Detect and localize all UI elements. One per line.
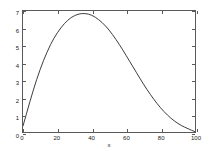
y-tick-right [192, 29, 195, 30]
x-tick-bottom [127, 129, 128, 132]
y-tick-label-text: 6 [16, 28, 19, 35]
x-tick-label: 0 [20, 135, 23, 142]
y-tick-right [192, 81, 195, 82]
x-tick-bottom [93, 129, 94, 132]
curve-plot [23, 11, 195, 132]
y-tick-right [192, 46, 195, 47]
x-tick-bottom [23, 129, 24, 132]
x-tick-top [58, 11, 59, 14]
x-tick-label: 80 [158, 135, 165, 142]
x-tick-top [93, 11, 94, 14]
y-tick-left [23, 46, 26, 47]
y-tick-left [23, 99, 26, 100]
x-tick-label: 40 [88, 135, 95, 142]
y-tick-left [23, 64, 26, 65]
data-series-curve [23, 14, 195, 132]
x-tick-top [162, 11, 163, 14]
y-tick-left [23, 29, 26, 30]
y-tick-right [192, 99, 195, 100]
y-tick-left [23, 11, 26, 12]
x-tick-bottom [162, 129, 163, 132]
figure-canvas: x 02040608010001234567 [0, 0, 210, 151]
y-tick-label-text: 0 [16, 133, 19, 140]
y-tick-right [192, 11, 195, 12]
y-tick-label-text: 3 [16, 80, 19, 87]
x-tick-label: 100 [191, 135, 201, 142]
plot-area [22, 10, 196, 133]
x-tick-top [197, 11, 198, 14]
y-tick-label-text: 2 [16, 98, 19, 105]
x-tick-top [127, 11, 128, 14]
x-tick-label: 60 [123, 135, 130, 142]
y-tick-right [192, 64, 195, 65]
y-tick-label-text: 5 [16, 45, 19, 52]
y-tick-label-text: 1 [16, 115, 19, 122]
y-tick-label-text: 4 [16, 63, 19, 70]
x-axis-label: x [108, 142, 111, 149]
x-tick-bottom [197, 129, 198, 132]
x-tick-bottom [58, 129, 59, 132]
y-tick-label-text: 7 [16, 10, 19, 17]
y-tick-right [192, 116, 195, 117]
x-tick-label: 20 [53, 135, 60, 142]
y-tick-left [23, 116, 26, 117]
y-tick-left [23, 81, 26, 82]
